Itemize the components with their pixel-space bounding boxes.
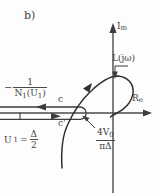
contour-c-label: c [58, 95, 63, 104]
critical-value-num-text: 4V [97, 127, 109, 137]
critical-value-label: 4V0 πΔ [96, 128, 115, 151]
imaginary-axis [109, 23, 116, 193]
amplitude-numerator: Δ [30, 130, 39, 139]
amplitude-denominator: 2 [30, 139, 39, 150]
df-arg-open: (U [27, 88, 38, 98]
amplitude-condition-label: U1 = Δ 2 [4, 130, 38, 150]
minus-sign: − [4, 83, 12, 93]
amplitude-symbol: U [4, 136, 12, 145]
amplitude-index: 1 [14, 137, 18, 144]
fraction-numerator: 1 [13, 78, 46, 87]
transfer-function-label: L(jω) [112, 54, 135, 63]
df-arg-close: ) [42, 88, 46, 98]
critical-value-fraction: 4V0 πΔ [96, 128, 115, 151]
real-axis-subscript: e [139, 96, 143, 104]
negative-inverse-df-label: − 1 N1(U1) [4, 78, 47, 101]
panel-label: b) [24, 10, 35, 21]
imaginary-axis-label: Im [117, 22, 127, 32]
contour-c-prime-label: c' [58, 119, 66, 128]
nyquist-curve [62, 76, 133, 168]
locus-arrow-upper [36, 104, 46, 111]
real-axis-symbol: R [132, 93, 139, 103]
negative-inverse-df-locus [0, 104, 86, 120]
amplitude-fraction: Δ 2 [30, 130, 39, 150]
critical-value-numerator: 4V0 [96, 128, 115, 140]
fraction-denominator: N1(U1) [13, 87, 46, 101]
negative-inverse-df-fraction: 1 N1(U1) [13, 78, 46, 101]
equals-sign: = [20, 136, 28, 145]
real-axis-label: Re [132, 94, 143, 104]
critical-value-num-index: 0 [109, 131, 113, 139]
critical-value-leader [82, 116, 95, 129]
figure-canvas: b) Im Re L(jω) c c' − 1 N1(U1) U1 = Δ 2 … [0, 0, 160, 193]
imaginary-axis-subscript: m [121, 24, 128, 32]
critical-value-denominator: πΔ [96, 140, 115, 151]
